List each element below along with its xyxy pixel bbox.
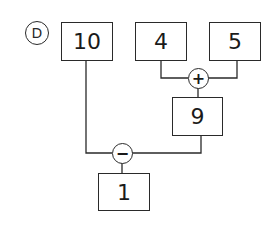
- diagram-label-badge: D: [25, 21, 49, 45]
- node-box-1: 1: [98, 173, 150, 211]
- minus-operator-icon: −: [112, 143, 133, 164]
- node-box-10: 10: [61, 22, 113, 61]
- node-box-9: 9: [172, 97, 223, 136]
- plus-operator-icon: +: [188, 68, 209, 89]
- node-box-5: 5: [209, 22, 261, 61]
- node-box-4: 4: [135, 22, 187, 61]
